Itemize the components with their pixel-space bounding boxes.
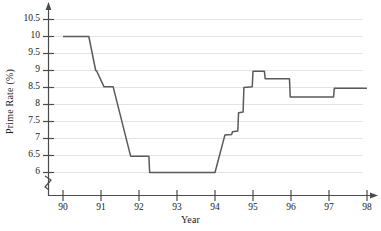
x-axis-title: Year — [0, 214, 381, 225]
x-tick-label-96: 96 — [281, 203, 301, 213]
y-tick-label-9: 9 — [10, 65, 40, 75]
y-tick-label-8_5: 8.5 — [10, 82, 40, 92]
x-tick-label-94: 94 — [205, 203, 225, 213]
x-axis-arrowhead — [370, 193, 378, 199]
y-tick-label-7: 7 — [10, 133, 40, 143]
y-tick-label-6_5: 6.5 — [10, 150, 40, 160]
y-axis-arrowhead — [46, 2, 52, 10]
x-tick-label-90: 90 — [53, 203, 73, 213]
x-tick-label-93: 93 — [167, 203, 187, 213]
chart-plot-area — [0, 0, 381, 231]
y-tick-label-9_5: 9.5 — [10, 48, 40, 58]
x-tick-label-91: 91 — [91, 203, 111, 213]
y-axis-title: Prime Rate (%) — [4, 66, 15, 138]
gridlines — [48, 20, 363, 173]
y-tick-label-10: 10 — [10, 31, 40, 41]
prime-rate-line-chart: 10.5 10 9.5 9 8.5 8 7.5 7 6.5 6 90 91 92… — [0, 0, 381, 231]
x-tick-label-97: 97 — [319, 203, 339, 213]
x-tick-label-95: 95 — [243, 203, 263, 213]
y-tick-label-10_5: 10.5 — [10, 14, 40, 24]
y-tick-label-8: 8 — [10, 99, 40, 109]
y-tick-label-6: 6 — [10, 167, 40, 177]
x-tick-label-98: 98 — [357, 203, 377, 213]
y-tick-label-7_5: 7.5 — [10, 116, 40, 126]
x-tick-label-92: 92 — [129, 203, 149, 213]
